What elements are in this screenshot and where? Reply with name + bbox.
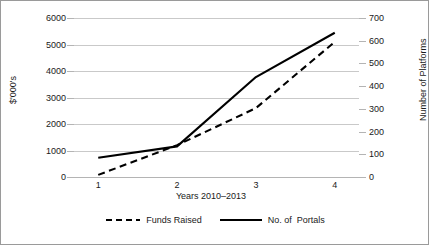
y-axis-right-tick-mark xyxy=(359,109,366,110)
y-axis-right-tick-mark xyxy=(359,132,366,133)
y-axis-left-tick-label: 1000 xyxy=(26,146,66,156)
y-axis-left-tick-mark xyxy=(67,45,74,46)
y-axis-right-tick-label: 700 xyxy=(369,13,409,23)
y-axis-right-tick-label: 600 xyxy=(369,36,409,46)
y-axis-left-tick-mark xyxy=(67,124,74,125)
y-axis-right-tick-label: 400 xyxy=(369,81,409,91)
chart-figure: $'000's Number of Platforms Years 2010–2… xyxy=(0,0,429,245)
y-axis-left-tick-mark xyxy=(67,18,74,19)
legend-label-no-of-portals: No. of Portals xyxy=(268,215,325,225)
legend-item-funds-raised[interactable]: Funds Raised xyxy=(106,215,202,225)
y-axis-left-tick-label: 0 xyxy=(26,172,66,182)
x-axis-tick-label: 3 xyxy=(236,180,276,190)
y-axis-title-right: Number of Platforms xyxy=(418,47,428,121)
series-line-funds-raised xyxy=(98,42,335,175)
plot-area xyxy=(74,18,359,177)
series-line-no-of-portals xyxy=(98,33,335,158)
y-axis-left-tick-mark xyxy=(67,98,74,99)
legend-label-funds-raised: Funds Raised xyxy=(146,215,202,225)
y-axis-left-tick-mark xyxy=(67,71,74,72)
x-axis-tick-label: 4 xyxy=(315,180,355,190)
y-axis-right-tick-label: 0 xyxy=(369,172,409,182)
y-axis-left-tick-label: 6000 xyxy=(26,13,66,23)
y-axis-right-tick-label: 200 xyxy=(369,127,409,137)
dashed-line-icon xyxy=(106,216,140,224)
y-axis-left-tick-label: 5000 xyxy=(26,40,66,50)
chart-legend: Funds Raised No. of Portals xyxy=(1,215,429,225)
y-axis-right-tick-mark xyxy=(359,41,366,42)
y-axis-left-tick-label: 2000 xyxy=(26,119,66,129)
x-axis-tick-label: 1 xyxy=(78,180,118,190)
series-lines xyxy=(74,18,359,177)
y-axis-right-tick-label: 100 xyxy=(369,149,409,159)
y-axis-left-tick-label: 4000 xyxy=(26,66,66,76)
y-axis-right-tick-mark xyxy=(359,177,366,178)
y-axis-right-tick-label: 300 xyxy=(369,104,409,114)
y-axis-right-tick-mark xyxy=(359,154,366,155)
legend-item-no-of-portals[interactable]: No. of Portals xyxy=(220,215,325,225)
x-axis-tick-label: 2 xyxy=(157,180,197,190)
y-axis-left-tick-mark xyxy=(67,177,74,178)
y-axis-left-tick-mark xyxy=(67,151,74,152)
y-axis-title-left: $'000's xyxy=(8,60,18,120)
solid-line-icon xyxy=(220,216,262,224)
y-axis-right-tick-mark xyxy=(359,86,366,87)
axis-baseline xyxy=(74,177,359,178)
x-axis-title: Years 2010–2013 xyxy=(61,191,361,201)
y-axis-right-tick-mark xyxy=(359,18,366,19)
y-axis-left-tick-label: 3000 xyxy=(26,93,66,103)
y-axis-right-tick-label: 500 xyxy=(369,58,409,68)
y-axis-right-tick-mark xyxy=(359,63,366,64)
